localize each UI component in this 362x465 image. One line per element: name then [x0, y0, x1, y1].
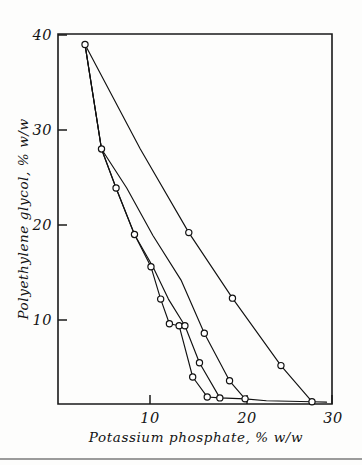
series-layer: [82, 41, 327, 404]
data-point-marker: [131, 231, 137, 237]
data-point-marker: [158, 296, 164, 302]
x-tick-label-30: 30: [323, 410, 342, 426]
y-tick-label-20: 20: [32, 217, 52, 233]
data-point-marker: [98, 146, 104, 152]
data-point-marker: [204, 394, 210, 400]
curve-tie-line-3: [85, 45, 220, 398]
y-tick-label-10: 10: [33, 312, 52, 328]
x-tick-label-20: 20: [236, 410, 256, 426]
curve-tie-line-4: [85, 45, 207, 397]
data-point-marker: [82, 41, 88, 47]
data-point-marker: [217, 395, 223, 401]
y-axis-title: Polyethylene glycol, % w/w: [15, 118, 31, 320]
chart-canvas: 40 30 20 10 10 20 30 Potassium phosphate…: [0, 0, 362, 465]
y-tick-label-40: 40: [32, 27, 52, 43]
data-point-marker: [186, 230, 192, 236]
curve-tie-line-1: [85, 45, 312, 402]
x-axis-ticks: [150, 395, 332, 404]
data-point-marker: [229, 295, 235, 301]
data-point-marker: [226, 378, 232, 384]
data-point-marker: [166, 321, 172, 327]
y-tick-label-30: 30: [33, 122, 52, 138]
phase-diagram-figure: 40 30 20 10 10 20 30 Potassium phosphate…: [0, 0, 362, 465]
data-point-marker: [148, 264, 154, 270]
data-point-marker: [309, 399, 315, 405]
data-point-marker: [242, 396, 248, 402]
data-point-marker: [190, 374, 196, 380]
data-point-marker: [196, 360, 202, 366]
curve-tie-line-2: [85, 45, 245, 399]
y-axis-ticks: [58, 35, 67, 320]
x-axis-title: Potassium phosphate, % w/w: [88, 429, 303, 445]
data-point-marker: [113, 185, 119, 191]
x-tick-label-10: 10: [140, 410, 159, 426]
data-point-marker: [201, 330, 207, 336]
data-point-marker: [182, 323, 188, 329]
data-point-marker: [278, 363, 284, 369]
plot-frame: [58, 34, 332, 404]
